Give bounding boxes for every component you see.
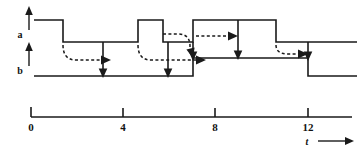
- tick-group-8: 8: [212, 108, 218, 133]
- arrowhead-icon: [304, 51, 313, 61]
- tick-group-4: 4: [120, 108, 126, 133]
- time-direction-arrow-icon: [318, 137, 354, 145]
- tick-label-0: 0: [28, 121, 34, 133]
- tick-label-8: 8: [212, 121, 218, 133]
- signal-a-label: a: [18, 29, 23, 40]
- time-axis-label: t: [306, 136, 310, 147]
- tick-label-4: 4: [120, 121, 126, 133]
- signal-b-axis-marker: [25, 42, 33, 66]
- causality-arrow-5: [276, 45, 308, 58]
- timing-diagram-figure: a b: [0, 0, 361, 148]
- signal-a-waveform: [34, 20, 357, 42]
- timing-diagram-svg: a b: [0, 0, 361, 148]
- drop-arrow-4: [234, 20, 243, 60]
- causality-arrow-1: [63, 45, 111, 64]
- signal-b-label: b: [17, 65, 23, 76]
- up-arrow-icon: [25, 42, 33, 51]
- arrowhead-icon: [196, 56, 206, 65]
- tick-group-0: 0: [28, 107, 34, 133]
- tick-group-12: 12: [303, 108, 315, 133]
- tick-label-12: 12: [303, 121, 315, 133]
- causality-arrow-4: [196, 32, 238, 41]
- signal-a-axis-marker: [25, 6, 33, 30]
- up-arrow-icon: [25, 6, 33, 15]
- drop-arrow-2: [164, 42, 173, 78]
- arrowhead-icon: [228, 32, 238, 41]
